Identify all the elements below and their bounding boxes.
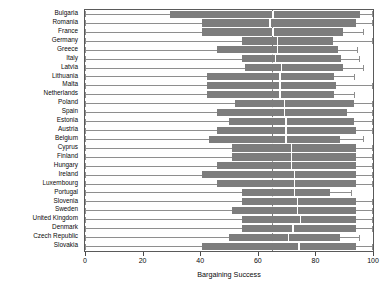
whisker-cap-right [354,74,355,80]
bar-split-marker [297,198,298,205]
y-axis-labels: BulgariaRomaniaFranceGermanyGreeceItalyL… [0,9,82,252]
whisker-cap-left [85,145,86,151]
whisker-cap-right [372,83,373,89]
bar-row [85,90,373,99]
y-axis-tick-label: Estonia [0,117,78,123]
bar [242,55,341,62]
whisker-cap-left [85,208,86,214]
x-axis-tick-label: 20 [139,257,147,265]
whisker-cap-right [372,163,373,169]
bar-split-marker [279,91,280,98]
whisker-cap-left [85,217,86,223]
bar [242,37,333,44]
bar-row [85,81,373,90]
bar [242,189,330,196]
x-axis-tick-label: 40 [196,257,204,265]
y-axis-tick-label: Ireland [0,171,78,177]
x-axis-tick-label: 100 [367,257,379,265]
bar [232,153,356,160]
bar-row [85,99,373,108]
bar-split-marker [277,37,278,44]
bar [217,127,355,134]
y-axis-tick-label: Sweden [0,206,78,212]
whisker-cap-left [85,47,86,53]
whisker-cap-left [85,11,86,17]
y-axis-tick-label: Latvia [0,64,78,70]
x-axis-title: Bargaining Success [84,270,374,279]
bar-row [85,108,373,117]
whisker-cap-right [372,154,373,160]
whisker-cap-left [85,136,86,142]
bar [217,180,355,187]
bar-split-marker [285,136,286,143]
bar-split-marker [272,11,273,18]
bar [217,46,338,53]
whisker-cap-right [359,235,360,241]
bar-row [85,37,373,46]
whisker-cap-left [85,29,86,35]
bar-split-marker [269,19,270,26]
bargaining-success-chart: BulgariaRomaniaFranceGermanyGreeceItalyL… [0,0,387,289]
bar-split-marker [272,28,273,35]
whisker-cap-left [85,110,86,116]
bar-split-marker [300,216,301,223]
bar-split-marker [285,127,286,134]
whisker-cap-right [372,172,373,178]
whisker-cap-right [372,226,373,232]
bar [170,11,360,18]
whisker-cap-left [85,38,86,44]
bar-split-marker [279,82,280,89]
bar-row [85,126,373,135]
whisker-cap-left [85,101,86,107]
bar-split-marker [291,162,292,169]
y-axis-tick-label: Slovakia [0,242,78,248]
x-axis-tick-label: 80 [311,257,319,265]
bar-row [85,242,373,251]
bar [207,82,335,89]
bar-row [85,46,373,55]
whisker-cap-left [85,74,86,80]
bar-row [85,180,373,189]
whisker-cap-left [85,119,86,125]
whisker-cap-right [354,92,355,98]
bar [232,144,356,151]
bar [202,243,356,250]
bar [202,171,356,178]
whisker-cap-left [85,154,86,160]
y-axis-tick-label: Malta [0,81,78,87]
whisker-cap-left [85,128,86,134]
whisker-cap-left [85,65,86,71]
y-axis-tick-label: Spain [0,108,78,114]
whisker-cap-right [372,145,373,151]
whisker-cap-left [85,172,86,178]
bar [202,19,356,26]
x-axis-tick-label: 60 [254,257,262,265]
x-axis-tick [85,252,86,256]
bar-split-marker [291,144,292,151]
bar-split-marker [275,55,276,62]
bar-row [85,224,373,233]
y-axis-tick-label: Belgium [0,135,78,141]
bar [207,73,334,80]
bar-split-marker [292,225,293,232]
bar-split-marker [281,64,282,71]
whisker-cap-right [372,181,373,187]
whisker-cap-left [85,181,86,187]
whisker-cap-left [85,199,86,205]
bar-row [85,188,373,197]
y-axis-tick-label: Romania [0,19,78,25]
x-axis-tick [315,252,316,256]
bar-split-marker [294,180,295,187]
bar-row [85,19,373,28]
bar-split-marker [297,207,298,214]
whisker-cap-right [363,65,364,71]
y-axis-tick-label: Germany [0,37,78,43]
bar-row [85,215,373,224]
bar-row [85,197,373,206]
y-axis-tick-label: Czech Republic [0,233,78,239]
bar-row [85,171,373,180]
whisker-cap-right [372,110,373,116]
bar [207,91,334,98]
bar-split-marker [298,243,299,250]
y-axis-tick-label: Lithuania [0,73,78,79]
